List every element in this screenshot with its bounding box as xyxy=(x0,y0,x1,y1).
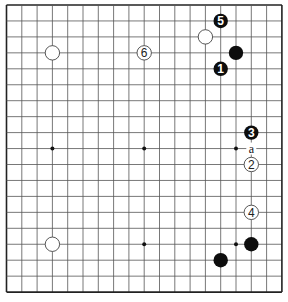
move-number: 5 xyxy=(217,14,224,28)
move-number: 1 xyxy=(217,62,224,76)
star-point xyxy=(234,147,238,151)
move-number: 4 xyxy=(248,206,255,220)
white-stone-icon xyxy=(198,30,212,44)
stones: 651324 xyxy=(45,14,258,268)
black-stone: 1 xyxy=(214,62,228,76)
marker-label: a xyxy=(249,142,255,156)
black-stone-icon xyxy=(244,237,258,251)
board-markers: a xyxy=(246,142,256,156)
black-stone xyxy=(244,237,258,251)
white-stone: 2 xyxy=(244,157,258,172)
black-stone xyxy=(229,46,243,60)
star-point xyxy=(50,147,54,151)
black-stone: 3 xyxy=(244,125,258,139)
white-stone xyxy=(45,46,59,60)
white-stone: 6 xyxy=(137,46,151,61)
go-board-diagram: a 651324 xyxy=(0,0,288,302)
white-stone-icon xyxy=(45,46,59,60)
move-number: 6 xyxy=(141,46,148,60)
star-point xyxy=(142,242,146,246)
black-stone: 5 xyxy=(214,14,228,28)
move-number: 3 xyxy=(248,126,255,140)
black-stone-icon xyxy=(229,46,243,60)
star-point xyxy=(142,147,146,151)
star-point xyxy=(234,242,238,246)
black-stone-icon xyxy=(214,253,228,267)
white-stone-icon xyxy=(45,237,59,251)
white-stone xyxy=(198,30,212,44)
white-stone: 4 xyxy=(244,205,258,219)
move-number: 2 xyxy=(248,158,255,172)
black-stone xyxy=(214,253,228,267)
white-stone xyxy=(45,237,59,251)
